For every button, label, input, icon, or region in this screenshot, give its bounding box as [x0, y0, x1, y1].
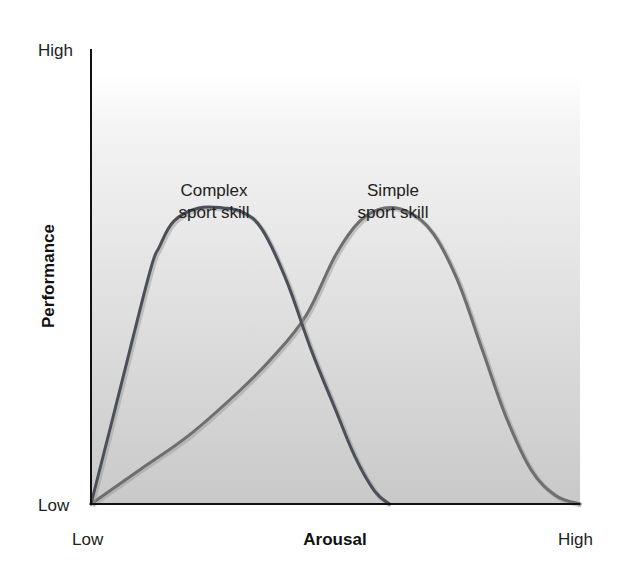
y-axis-title: Performance [39, 224, 58, 328]
x-tick-low: Low [72, 530, 104, 549]
inverted-u-chart: High Low Low High Arousal Performance Co… [0, 0, 632, 570]
x-axis-title: Arousal [303, 530, 366, 549]
complex-skill-label-line1: Complex [180, 181, 248, 200]
plot-background [91, 75, 580, 504]
y-tick-high: High [38, 41, 73, 60]
simple-skill-label-line1: Simple [367, 181, 419, 200]
y-tick-low: Low [38, 496, 70, 515]
simple-skill-label-line2: sport skill [358, 203, 429, 222]
x-tick-high: High [558, 530, 593, 549]
complex-skill-label-line2: sport skill [179, 203, 250, 222]
